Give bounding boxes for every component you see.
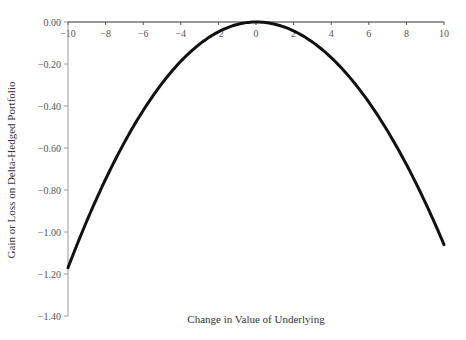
x-tick-label: −8 <box>100 28 111 39</box>
x-tick-label: 4 <box>329 28 334 39</box>
x-axis-ticks: −10−8−6−4−20246810 <box>60 22 449 39</box>
x-tick-label: −4 <box>175 28 186 39</box>
y-tick-label: −1.00 <box>38 227 61 238</box>
y-tick-label: −0.60 <box>38 143 61 154</box>
x-tick-label: 0 <box>254 28 259 39</box>
y-axis-title: Gain or Loss on Delta-Hedged Portfolio <box>5 81 17 258</box>
y-tick-label: 0.00 <box>44 17 62 28</box>
x-axis-title: Change in Value of Underlying <box>187 313 325 325</box>
y-tick-label: −1.20 <box>38 269 61 280</box>
chart: 0.00−0.20−0.40−0.60−0.80−1.00−1.20−1.40 … <box>0 0 466 340</box>
x-tick-label: 10 <box>439 28 449 39</box>
y-tick-label: −0.80 <box>38 185 61 196</box>
x-tick-label: −6 <box>138 28 149 39</box>
y-axis-ticks: 0.00−0.20−0.40−0.60−0.80−1.00−1.20−1.40 <box>38 17 68 322</box>
x-tick-label: 8 <box>404 28 409 39</box>
pnl-curve <box>68 22 444 268</box>
y-tick-label: −1.40 <box>38 311 61 322</box>
x-tick-label: 6 <box>366 28 371 39</box>
y-tick-label: −0.40 <box>38 101 61 112</box>
y-tick-label: −0.20 <box>38 59 61 70</box>
